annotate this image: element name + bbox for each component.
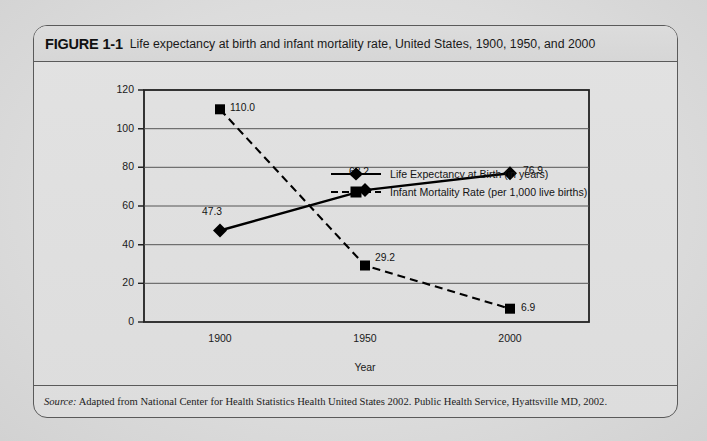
data-label-imr-1900: 110.0 bbox=[230, 102, 255, 113]
figure-title: Life expectancy at birth and infant mort… bbox=[130, 37, 596, 51]
y-tick-label-60: 60 bbox=[96, 199, 134, 211]
figure-container: FIGURE 1-1 Life expectancy at birth and … bbox=[33, 25, 678, 418]
y-tick-label-120: 120 bbox=[96, 83, 134, 95]
figure-footer: Source: Adapted from National Center for… bbox=[34, 385, 677, 417]
x-tick-label-2000: 2000 bbox=[480, 332, 540, 344]
source-text: Adapted from National Center for Health … bbox=[77, 396, 607, 407]
x-axis-title: Year bbox=[335, 361, 395, 373]
data-label-le-1900: 47.3 bbox=[202, 206, 222, 217]
chart-legend: Life Expectancy at Birth (in years) Infa… bbox=[330, 165, 610, 201]
data-label-imr-1950: 29.2 bbox=[375, 252, 395, 263]
legend-item-life-expectancy: Life Expectancy at Birth (in years) bbox=[330, 165, 610, 183]
legend-marker-square-icon bbox=[330, 184, 382, 200]
legend-item-infant-mortality: Infant Mortality Rate (per 1,000 live bi… bbox=[330, 183, 610, 201]
x-tick-label-1950: 1950 bbox=[335, 332, 395, 344]
y-tick-label-40: 40 bbox=[96, 238, 134, 250]
figure-body: 120 100 80 60 40 20 0 1900 1950 2000 Yea… bbox=[34, 62, 677, 385]
y-tick-label-100: 100 bbox=[96, 122, 134, 134]
figure-header: FIGURE 1-1 Life expectancy at birth and … bbox=[34, 26, 677, 62]
figure-number: FIGURE 1-1 bbox=[45, 36, 123, 52]
data-label-imr-2000: 6.9 bbox=[521, 302, 535, 313]
y-tick-label-0: 0 bbox=[96, 315, 134, 327]
y-tick-label-20: 20 bbox=[96, 276, 134, 288]
legend-label-life-expectancy: Life Expectancy at Birth (in years) bbox=[390, 168, 548, 180]
chart-area: 120 100 80 60 40 20 0 1900 1950 2000 Yea… bbox=[34, 62, 677, 385]
source-note: Source: Adapted from National Center for… bbox=[44, 396, 607, 407]
legend-marker-diamond-icon bbox=[330, 166, 382, 182]
y-tick-label-80: 80 bbox=[96, 160, 134, 172]
legend-label-infant-mortality: Infant Mortality Rate (per 1,000 live bi… bbox=[390, 186, 587, 198]
source-label: Source: bbox=[44, 396, 77, 407]
x-tick-label-1900: 1900 bbox=[190, 332, 250, 344]
